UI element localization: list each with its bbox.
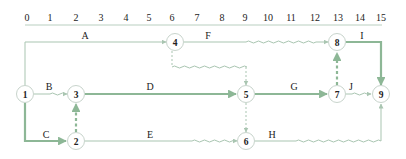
tick-4: 4 xyxy=(124,12,129,23)
tick-12: 12 xyxy=(310,12,320,23)
node-1-label: 1 xyxy=(23,90,28,100)
activity-i: I xyxy=(346,30,381,85)
activity-d-label: D xyxy=(146,81,153,92)
node-4-label: 4 xyxy=(173,38,178,48)
node-1: 1 xyxy=(17,86,34,103)
tick-0: 0 xyxy=(25,12,30,23)
node-4: 4 xyxy=(167,34,184,51)
tick-10: 10 xyxy=(263,12,273,23)
node-5: 5 xyxy=(238,86,255,103)
activity-h: H xyxy=(255,104,381,142)
activity-i-label: I xyxy=(360,30,363,41)
node-8: 8 xyxy=(329,34,346,51)
node-9: 9 xyxy=(373,86,390,103)
node-6: 6 xyxy=(238,133,255,150)
activity-a-label: A xyxy=(81,30,89,41)
activity-j-label: J xyxy=(349,81,353,92)
node-8-label: 8 xyxy=(335,38,340,48)
activity-h-label: H xyxy=(268,129,275,140)
tick-7: 7 xyxy=(195,12,200,23)
node-6-label: 6 xyxy=(244,137,249,147)
activity-b-label: B xyxy=(46,81,53,92)
time-axis: 0 1 2 3 4 5 6 7 8 9 10 11 12 13 14 15 xyxy=(25,12,387,25)
activity-f-label: F xyxy=(205,30,211,41)
activity-e-label: E xyxy=(147,129,153,140)
activity-c: C xyxy=(25,103,66,141)
network-diagram: 0 1 2 3 4 5 6 7 8 9 10 11 12 13 14 15 A … xyxy=(0,0,406,159)
tick-5: 5 xyxy=(147,12,152,23)
activity-a: A xyxy=(25,30,166,86)
node-7: 7 xyxy=(329,86,346,103)
node-7-label: 7 xyxy=(335,90,340,100)
node-2: 2 xyxy=(68,133,85,150)
activity-d: D xyxy=(85,81,236,94)
node-9-label: 9 xyxy=(379,90,384,100)
tick-1: 1 xyxy=(48,12,53,23)
tick-14: 14 xyxy=(355,12,365,23)
tick-2: 2 xyxy=(74,12,79,23)
tick-6: 6 xyxy=(170,12,175,23)
activity-b: B xyxy=(34,81,67,95)
node-3: 3 xyxy=(68,86,85,103)
dummy-4-5 xyxy=(172,51,247,85)
tick-13: 13 xyxy=(333,12,343,23)
tick-8: 8 xyxy=(220,12,225,23)
activity-e: E xyxy=(85,129,237,142)
tick-15: 15 xyxy=(376,12,386,23)
node-5-label: 5 xyxy=(244,90,249,100)
activity-g-label: G xyxy=(290,81,297,92)
tick-11: 11 xyxy=(286,12,296,23)
node-3-label: 3 xyxy=(74,90,79,100)
tick-9: 9 xyxy=(243,12,248,23)
activity-j: J xyxy=(346,81,371,95)
node-2-label: 2 xyxy=(74,137,79,147)
activity-g: G xyxy=(255,81,327,94)
activity-c-label: C xyxy=(43,129,50,140)
activity-f: F xyxy=(184,30,328,43)
tick-3: 3 xyxy=(99,12,104,23)
